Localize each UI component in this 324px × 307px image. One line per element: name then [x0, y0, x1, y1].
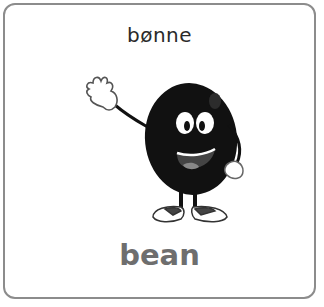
- flashcard: bønne be: [3, 3, 316, 299]
- sneakers-icon: [153, 206, 227, 221]
- bean-character-illustration: [81, 71, 261, 227]
- hip-hand-icon: [225, 161, 243, 178]
- native-word-label: bønne: [5, 23, 314, 47]
- english-word-label: bean: [5, 238, 314, 272]
- waving-hand-icon: [87, 77, 117, 110]
